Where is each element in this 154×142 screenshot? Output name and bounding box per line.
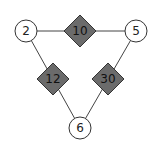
product-diamond-top: 10	[64, 15, 96, 47]
node-label-top-left: 2	[22, 24, 30, 38]
product-label-right: 30	[100, 72, 115, 86]
node-label-bottom: 6	[76, 121, 84, 135]
product-label-left: 12	[45, 72, 60, 86]
number-circle-top-right: 5	[125, 20, 147, 42]
number-circle-bottom: 6	[69, 117, 91, 139]
number-circle-top-left: 2	[15, 20, 37, 42]
product-label-top: 10	[72, 24, 87, 38]
node-label-top-right: 5	[132, 24, 140, 38]
triangle-diagram: 10 12 30 2 5 6	[0, 0, 154, 142]
product-diamond-left: 12	[37, 63, 69, 95]
product-diamond-right: 30	[92, 63, 124, 95]
